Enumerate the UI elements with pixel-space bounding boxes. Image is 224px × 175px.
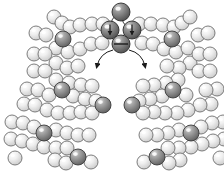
- lattice-atom: [82, 128, 96, 142]
- lattice-atom: [183, 10, 197, 24]
- highlighted-atom: [183, 125, 199, 141]
- lattice-atom: [136, 79, 150, 93]
- lattice-atom: [85, 79, 99, 93]
- highlighted-atom: [164, 31, 180, 47]
- lattice-atom: [213, 151, 224, 165]
- core-top: [112, 3, 130, 21]
- lattice-atom: [8, 151, 22, 165]
- highlighted-atom: [36, 125, 52, 141]
- lattice-diagram: [0, 0, 224, 175]
- highlighted-atom: [124, 97, 140, 113]
- lattice-atom: [199, 83, 213, 97]
- highlighted-atom: [54, 82, 70, 98]
- lattice-atom: [71, 59, 85, 73]
- highlighted-atom: [165, 82, 181, 98]
- highlighted-atom: [95, 97, 111, 113]
- lattice-atom: [39, 28, 53, 42]
- lattice-atom: [201, 26, 215, 40]
- lattice-atom: [203, 64, 217, 78]
- lattice-atom: [203, 47, 217, 61]
- highlighted-atom: [149, 149, 165, 165]
- highlighted-atom: [55, 31, 71, 47]
- lattice-atom: [160, 59, 174, 73]
- figure-canvas: [0, 0, 224, 175]
- lattice-atom: [139, 128, 153, 142]
- highlighted-atom: [70, 149, 86, 165]
